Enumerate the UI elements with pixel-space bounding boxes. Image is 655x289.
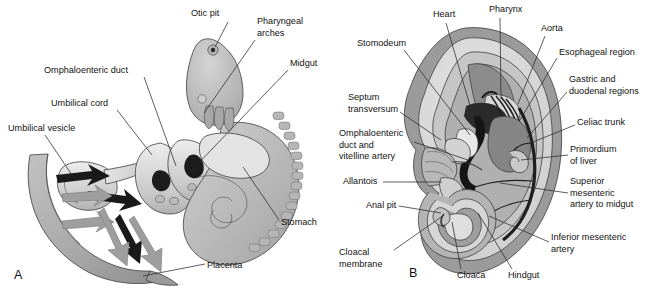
label-septum-transversum: Septumtransversum	[348, 92, 398, 114]
optic-vesicle	[198, 95, 206, 103]
label-celiac-trunk: Celiac trunk	[577, 117, 625, 127]
label-stomach: Stomach	[281, 217, 317, 227]
label-anal-pit: Anal pit	[366, 200, 397, 210]
label-aorta: Aorta	[541, 23, 564, 33]
label-inferior-mesenteric-artery: Inferior mesentericartery	[551, 232, 627, 254]
label-line: Umbilical vesicle	[8, 123, 75, 133]
label-line: Primordium	[570, 144, 617, 154]
label-omphaloenteric-duct: Omphaloenteric duct	[44, 65, 128, 75]
label-umbilical-vesicle: Umbilical vesicle	[8, 123, 75, 133]
label-stomodeum: Stomodeum	[357, 38, 406, 48]
label-line: Allantois	[343, 176, 378, 186]
label-allantois: Allantois	[343, 176, 378, 186]
label-line: Stomodeum	[357, 38, 406, 48]
umbilical-vein-lumen-2	[170, 197, 179, 204]
label-hindgut: Hindgut	[508, 270, 540, 280]
label-line: Anal pit	[366, 200, 397, 210]
label-line: Esophageal region	[559, 47, 635, 57]
label-line: artery	[551, 244, 575, 254]
umbilical-vein-lumen-1	[156, 195, 165, 202]
label-midgut: Midgut	[290, 58, 318, 68]
label-line: arches	[257, 28, 285, 38]
label-placenta: Placenta	[207, 260, 243, 270]
label-line: Umbilical cord	[51, 98, 108, 108]
label-line: Otic pit	[191, 8, 220, 18]
label-line: mesenteric	[570, 188, 615, 198]
leader-line-umbilical-cord	[117, 110, 152, 155]
label-line: artery to midgut	[570, 199, 634, 209]
label-line: Septum	[348, 92, 379, 102]
label-line: Pharyngeal	[257, 16, 303, 26]
label-line: membrane	[339, 259, 382, 269]
label-superior-mesenteric-artery: Superiormesentericartery to midgut	[570, 176, 634, 209]
label-line: Gastric and	[569, 74, 616, 84]
panel-letter-b: B	[409, 266, 417, 280]
label-line: of liver	[570, 156, 597, 166]
label-cloacal-membrane: Cloacalmembrane	[339, 247, 382, 269]
label-umbilical-cord: Umbilical cord	[51, 98, 108, 108]
label-line: Heart	[433, 9, 456, 19]
duct-lumen-1	[188, 184, 196, 191]
label-line: transversum	[348, 104, 398, 114]
label-pharyngeal-arches: Pharyngealarches	[257, 16, 303, 38]
figure-canvas: Otic pitPharyngealarchesMidgutOmphaloent…	[0, 0, 655, 289]
otic-pit-inner	[211, 48, 215, 52]
panel-a-artwork	[28, 39, 303, 285]
pharyngeal-arches-shape	[204, 106, 234, 131]
label-otic-pit: Otic pit	[191, 8, 220, 18]
label-line: Superior	[570, 176, 604, 186]
label-line: duct and	[339, 140, 374, 150]
label-line: Placenta	[207, 260, 243, 270]
label-heart: Heart	[433, 9, 456, 19]
label-line: Aorta	[541, 23, 564, 33]
leader-line-placenta	[143, 264, 205, 276]
label-pharynx: Pharynx	[489, 4, 523, 14]
label-cloaca: Cloaca	[457, 270, 486, 280]
label-line: duodenal regions	[569, 86, 639, 96]
label-line: Cloacal	[339, 247, 369, 257]
label-line: Celiac trunk	[577, 117, 625, 127]
label-line: Cloaca	[457, 270, 486, 280]
label-primordium-of-liver: Primordiumof liver	[570, 144, 617, 166]
label-line: vitelline artery	[339, 151, 396, 161]
label-omphaloenteric-duct-vitelline-artery: Omphaloentericduct andvitelline artery	[339, 128, 404, 161]
panel-letter-a: A	[14, 268, 23, 282]
label-line: Omphaloenteric duct	[44, 65, 128, 75]
label-line: Stomach	[281, 217, 317, 227]
label-line: Hindgut	[508, 270, 540, 280]
anatomical-figure: Otic pitPharyngealarchesMidgutOmphaloent…	[0, 0, 655, 289]
label-line: Omphaloenteric	[339, 128, 404, 138]
label-line: Inferior mesenteric	[551, 232, 627, 242]
label-esophageal-region: Esophageal region	[559, 47, 635, 57]
label-line: Pharynx	[489, 4, 523, 14]
leader-line-otic-pit	[215, 22, 228, 47]
label-gastric-duodenal-regions: Gastric andduodenal regions	[569, 74, 639, 96]
label-line: Midgut	[290, 58, 318, 68]
